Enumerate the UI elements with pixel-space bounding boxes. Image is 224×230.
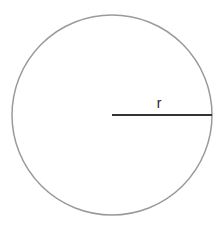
circle-diagram: r — [0, 0, 224, 230]
radius-label: r — [157, 95, 162, 111]
